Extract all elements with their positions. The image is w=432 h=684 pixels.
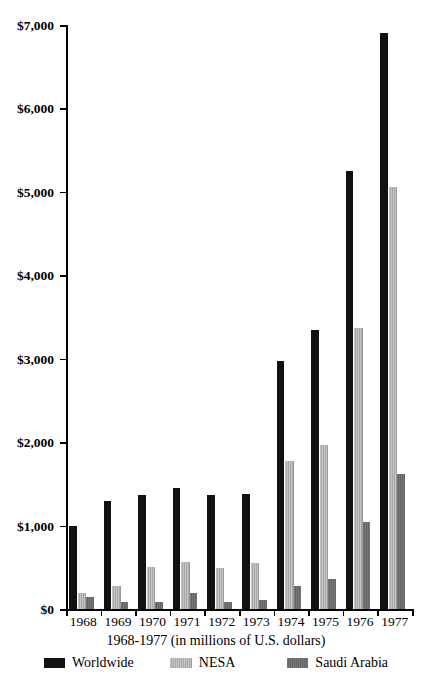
bar-1976-saudi-arabia [363,522,371,609]
bar-1973-worldwide [242,494,250,609]
legend-item-saudi-arabia[interactable]: Saudi Arabia [287,655,388,671]
y-axis-tick-label: $3,000 [0,353,54,367]
bar-1972-worldwide [207,495,215,609]
bar-1973-nesa [251,563,260,609]
bar-1974-worldwide [277,361,285,609]
x-axis-tick-label: 1969 [101,615,136,630]
bar-1977-saudi-arabia [397,474,405,609]
bar-1977-nesa [389,187,398,609]
bar-1968-worldwide [69,526,77,609]
x-axis-tick-label: 1974 [274,615,309,630]
chart-legend: Worldwide NESA Saudi Arabia [0,655,432,671]
y-axis-tick-label: $4,000 [0,269,54,283]
bar-1971-worldwide [173,488,181,609]
x-axis-tick-label: 1971 [170,615,205,630]
bar-1969-nesa [112,586,121,609]
y-axis-tick-label: $6,000 [0,102,54,116]
bar-1974-nesa [285,461,294,610]
legend-label-worldwide: Worldwide [72,655,134,671]
bar-1975-saudi-arabia [328,579,336,609]
bar-1976-worldwide [346,171,354,609]
legend-label-nesa: NESA [199,655,236,671]
bar-1970-nesa [147,567,156,609]
y-axis-tick-label: $5,000 [0,186,54,200]
y-axis-tick-label: $0 [0,603,54,617]
y-axis-tick-label: $2,000 [0,436,54,450]
bar-1969-saudi-arabia [121,602,129,609]
legend-swatch-worldwide [44,658,65,668]
bar-1973-saudi-arabia [259,600,267,609]
bar-1972-nesa [216,568,225,609]
bar-1969-worldwide [104,501,112,609]
x-axis-label: 1968-1977 (in millions of U.S. dollars) [0,633,432,649]
bar-1968-nesa [78,593,87,609]
bar-1971-nesa [181,562,190,609]
bar-1975-worldwide [311,330,319,609]
x-axis-tick-label: 1968 [66,615,101,630]
x-axis-tick-label: 1976 [343,615,378,630]
x-axis-tick-label: 1977 [377,615,412,630]
bar-1977-worldwide [380,33,388,609]
x-axis-tick-label: 1973 [239,615,274,630]
bar-1976-nesa [354,328,363,609]
x-axis-tick [412,609,414,616]
bar-chart: $0$1,000$2,000$3,000$4,000$5,000$6,000$7… [0,0,432,684]
bar-1970-saudi-arabia [155,602,163,610]
legend-swatch-saudi-arabia [287,658,308,668]
bar-1971-saudi-arabia [190,593,198,609]
x-axis-tick-label: 1970 [135,615,170,630]
x-axis-tick-label: 1972 [204,615,239,630]
bar-1974-saudi-arabia [294,586,302,609]
y-axis-tick-label: $7,000 [0,19,54,33]
plot-area [66,25,412,609]
bar-1975-nesa [320,445,329,609]
x-axis-tick-label: 1975 [308,615,343,630]
legend-item-worldwide[interactable]: Worldwide [44,655,134,671]
bar-1972-saudi-arabia [224,602,232,610]
y-axis-tick-label: $1,000 [0,520,54,534]
legend-label-saudi-arabia: Saudi Arabia [315,655,388,671]
bar-1970-worldwide [138,495,146,609]
legend-swatch-nesa [170,658,192,668]
bar-1968-saudi-arabia [86,597,94,610]
legend-item-nesa[interactable]: NESA [170,655,236,671]
